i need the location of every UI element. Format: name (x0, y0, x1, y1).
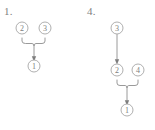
panel-4-node-4: 4 (132, 64, 144, 76)
panel-4-node-4-label: 4 (136, 66, 140, 75)
panel-4-node-3: 3 (111, 22, 123, 34)
panel-4-node-1: 1 (121, 104, 133, 116)
panel-4-graph: 3 2 4 1 (78, 0, 155, 130)
panel-4-brace (117, 80, 138, 88)
panel-1-node-3-label: 3 (43, 24, 47, 33)
panel-4-node-1-label: 1 (125, 106, 129, 115)
panel-1-node-2: 2 (16, 22, 28, 34)
panel-4-node-2: 2 (111, 64, 123, 76)
panel-1-node-3: 3 (39, 22, 51, 34)
figure-root: 1. 2 3 1 4. (0, 0, 155, 130)
panel-1-brace (22, 38, 45, 46)
panel-4-node-3-label: 3 (115, 24, 119, 33)
panel-1-node-2-label: 2 (20, 24, 24, 33)
panel-1-node-1: 1 (28, 60, 40, 72)
diagram-panel-1: 1. 2 3 1 (0, 0, 78, 130)
panel-1-node-1-label: 1 (32, 62, 36, 71)
diagram-panel-4: 4. 3 2 4 (78, 0, 155, 130)
panel-4-node-2-label: 2 (115, 66, 119, 75)
panel-1-graph: 2 3 1 (0, 0, 78, 130)
